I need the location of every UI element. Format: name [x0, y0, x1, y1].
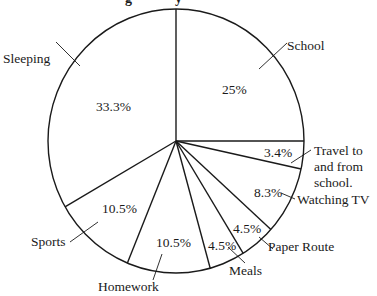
label-sports: Sports: [31, 234, 66, 249]
leader-sleeping: [56, 42, 80, 66]
pie-chart: g y School Sleeping Travel to and from s…: [0, 0, 377, 296]
percent-watching-tv: 8.3%: [254, 185, 282, 200]
slice-boundary: [65, 141, 176, 207]
label-sleeping: Sleeping: [3, 51, 50, 66]
percent-school: 25%: [222, 82, 247, 97]
percent-sleeping: 33.3%: [96, 99, 131, 114]
chart-title-fragment: g y: [125, 0, 182, 6]
label-travel-line1: Travel to: [314, 143, 363, 158]
pie: [48, 9, 304, 273]
svg-text:g: g: [125, 0, 132, 6]
percent-travel: 3.4%: [264, 145, 292, 160]
percent-homework: 10.5%: [156, 235, 191, 250]
label-homework: Homework: [98, 279, 159, 294]
percent-paper-route: 4.5%: [233, 221, 261, 236]
percent-meals: 4.5%: [208, 238, 236, 253]
leader-school: [259, 43, 287, 69]
label-watching-tv: Watching TV: [297, 192, 370, 207]
label-meals: Meals: [229, 263, 262, 278]
label-paper-route: Paper Route: [268, 239, 334, 254]
percent-sports: 10.5%: [102, 201, 137, 216]
leader-homework: [153, 254, 162, 280]
label-travel-line2: and from: [314, 159, 364, 174]
slice-boundaries: [65, 9, 304, 268]
label-school: School: [287, 38, 325, 53]
leader-sports: [70, 222, 98, 242]
svg-text:y: y: [175, 0, 182, 6]
leader-travel: [291, 150, 311, 163]
label-travel-line3: school.: [314, 175, 353, 190]
